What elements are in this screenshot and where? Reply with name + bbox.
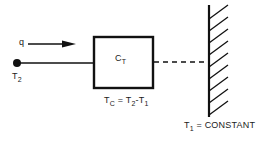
capacitance-label: CT [115, 54, 126, 63]
wall-temperature-label: T1 = CONSTANT [184, 121, 255, 130]
source-temperature-subscript: 2 [18, 76, 22, 83]
eq-part: = T [115, 95, 131, 105]
wall-temperature-suffix: = CONSTANT [194, 120, 255, 130]
constant-temperature-wall-icon [209, 5, 228, 117]
source-temperature-label: T2 [12, 72, 22, 81]
heat-flow-arrow-icon [28, 41, 76, 48]
eq-sub: 1 [144, 100, 148, 107]
heat-flow-label: q [19, 38, 24, 47]
temperature-difference-equation: TC = T2-T1 [104, 96, 148, 105]
capacitance-subscript: T [122, 58, 126, 65]
capacitance-symbol: C [115, 53, 122, 63]
